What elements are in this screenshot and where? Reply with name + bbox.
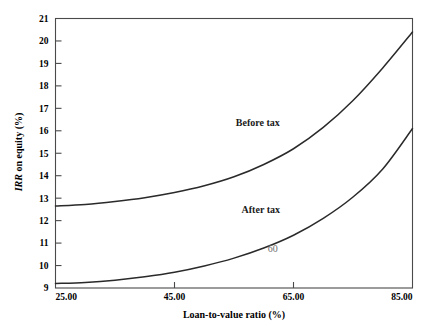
x-tick-label: 85.00	[391, 292, 413, 302]
annotation-before-tax: Before tax	[236, 117, 280, 128]
y-tick-label: 9	[44, 283, 49, 293]
chart-figure: 9101112131415161718192021 25.0045.0065.0…	[0, 0, 433, 327]
y-tick-label: 12	[39, 216, 49, 226]
y-tick-label: 18	[39, 81, 49, 91]
y-tick-label: 14	[39, 171, 49, 181]
y-tick-label: 15	[39, 149, 49, 159]
y-tick-label: 19	[39, 59, 49, 69]
y-tick-label: 21	[39, 14, 49, 24]
x-tick-label: 25.00	[56, 292, 78, 302]
y-axis-title: IRR on equity (%)	[13, 113, 25, 193]
x-axis-title: Loan-to-value ratio (%)	[183, 309, 285, 321]
x-tick-label: 45.00	[164, 292, 186, 302]
y-tick-label: 13	[39, 194, 49, 204]
y-tick-label: 11	[40, 238, 49, 248]
chart-background	[0, 0, 433, 327]
annotation-60: 60	[268, 243, 278, 254]
x-tick-label: 65.00	[283, 292, 305, 302]
y-tick-label: 17	[39, 104, 49, 114]
y-tick-label: 16	[39, 126, 49, 136]
annotation-after-tax: After tax	[242, 204, 280, 215]
y-tick-label: 10	[39, 261, 49, 271]
y-tick-label: 20	[39, 36, 49, 46]
irr-loan-to-value-chart: 9101112131415161718192021 25.0045.0065.0…	[0, 0, 433, 327]
